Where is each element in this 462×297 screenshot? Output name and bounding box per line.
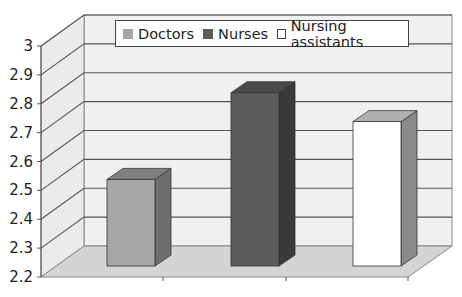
- bar-front: [353, 122, 401, 266]
- legend-label-nurses: Nurses: [218, 26, 268, 42]
- legend-item-doctors: Doctors: [123, 26, 194, 42]
- y-tick-label: 2.7: [9, 124, 33, 142]
- y-tick-label: 2.3: [9, 239, 33, 257]
- bar-doctors: [107, 168, 171, 266]
- bar-side: [401, 111, 417, 266]
- bar-nurses: [231, 82, 295, 266]
- legend-swatch-nurses: [203, 29, 213, 39]
- legend-swatch-nursing-assistants: [277, 29, 286, 39]
- legend-label-doctors: Doctors: [138, 26, 194, 42]
- bar-side: [279, 82, 295, 266]
- legend-item-nurses: Nurses: [203, 26, 268, 42]
- y-tick-label: 2.8: [9, 95, 33, 113]
- y-tick-label: 2.5: [9, 181, 33, 199]
- y-tick-label: 2.6: [9, 153, 33, 171]
- y-tick-label: 2.9: [9, 66, 33, 84]
- y-tick-label: 2.4: [9, 210, 33, 228]
- y-tick-label: 3: [23, 37, 33, 55]
- bar-front: [107, 179, 155, 266]
- bar-side: [155, 168, 171, 266]
- bar-nursing-assistants: [353, 111, 417, 266]
- legend-label-nursing-assistants: Nursing assistants: [291, 18, 399, 50]
- y-tick-label: 2.2: [9, 268, 33, 286]
- legend-item-nursing-assistants: Nursing assistants: [277, 18, 399, 50]
- legend: Doctors Nurses Nursing assistants: [115, 20, 409, 47]
- bar-front: [231, 93, 279, 266]
- legend-swatch-doctors: [123, 29, 133, 39]
